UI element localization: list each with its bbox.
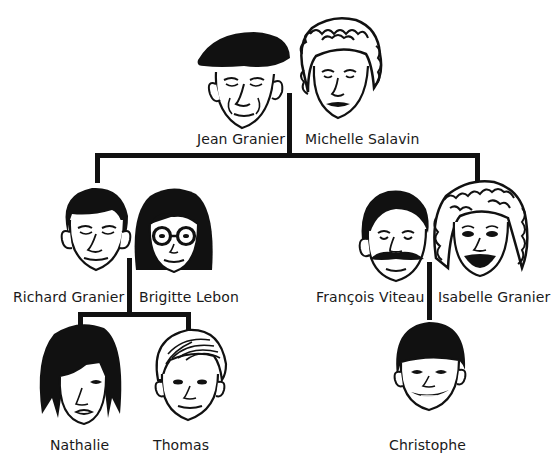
label-thomas: Thomas (153, 437, 209, 453)
label-francois-viteau: François Viteau (316, 289, 424, 305)
portrait-jean-granier (194, 24, 294, 132)
portrait-richard-granier (56, 180, 136, 276)
boy-bowl-cut-icon (389, 316, 471, 412)
family-tree-diagram: Jean Granier Michelle Salavin (0, 0, 560, 460)
connector-left-branch (95, 153, 100, 183)
elderly-man-beret-icon (194, 24, 294, 132)
connector-left-children-bar (78, 312, 191, 317)
portrait-francois-viteau (354, 181, 438, 285)
man-mustache-icon (354, 181, 438, 285)
label-isabelle-granier: Isabelle Granier (438, 289, 550, 305)
boy-light-hair-icon (148, 324, 230, 424)
label-brigitte-lebon: Brigitte Lebon (139, 289, 239, 305)
connector-generation2-bar (95, 153, 480, 158)
portrait-isabelle-granier (428, 178, 532, 280)
label-christophe: Christophe (389, 437, 466, 453)
portrait-michelle-salavin (292, 14, 384, 126)
label-nathalie: Nathalie (50, 437, 109, 453)
label-jean-granier: Jean Granier (197, 131, 285, 147)
portrait-christophe (389, 316, 471, 412)
woman-curly-hair-icon (428, 178, 532, 280)
label-richard-granier: Richard Granier (13, 289, 124, 305)
girl-dark-hair-icon (34, 318, 128, 428)
label-michelle-salavin: Michelle Salavin (305, 131, 420, 147)
portrait-thomas (148, 324, 230, 424)
portrait-nathalie (34, 318, 128, 428)
man-dark-hair-icon (56, 180, 136, 276)
elderly-woman-curly-hair-icon (292, 14, 384, 126)
portrait-brigitte-lebon (130, 184, 216, 276)
woman-bob-glasses-icon (130, 184, 216, 276)
